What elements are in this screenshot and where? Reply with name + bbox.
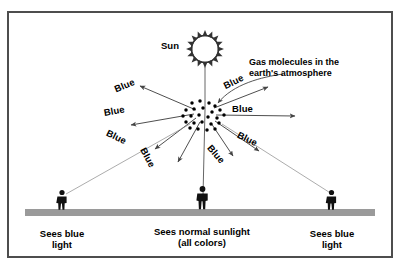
scatter-arrow-lower-left — [155, 118, 196, 149]
observer-center-figure — [196, 186, 207, 209]
observer-left-figure — [56, 190, 66, 210]
scatter-arrow-mid-right — [216, 115, 295, 116]
ray-to-left-observer — [66, 124, 190, 194]
observer-figures — [56, 186, 336, 210]
scatter-arrow-upper-left — [140, 86, 196, 110]
caption-observer-left: Sees blue light — [12, 228, 112, 250]
gas-annotation-line-2: earth's atmosphere — [249, 68, 339, 79]
gas-annotation-line-1: Gas molecules in the — [249, 57, 339, 68]
figure-container: Sun Gas molecules in the earth's atmosph… — [0, 0, 402, 267]
gas-annotation-label: Gas molecules in the earth's atmosphere — [249, 57, 339, 78]
observer-right-figure — [326, 190, 336, 210]
sun-icon — [186, 30, 224, 68]
ground-bar — [25, 209, 375, 216]
caption-observer-center: Sees normal sunlight (all colors) — [131, 226, 273, 248]
blue-label-mid-right: Blue — [232, 104, 253, 114]
caption-observer-right: Sees blue light — [282, 228, 382, 250]
sun-label: Sun — [161, 41, 179, 51]
